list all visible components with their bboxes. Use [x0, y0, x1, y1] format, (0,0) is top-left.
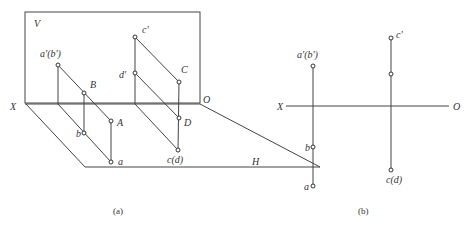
point-B: [82, 91, 86, 95]
label-c-d-b: c(d): [386, 174, 403, 186]
label-d-prime: d': [119, 69, 127, 80]
point-a-prime-b-prime-b: [311, 64, 315, 68]
point-b-b: [311, 145, 315, 149]
figure-a: V X O H a'(b') B A b a c' d' C D c(d) (a…: [9, 12, 320, 216]
label-a-b: a: [304, 181, 309, 192]
point-d-prime-b: [389, 72, 393, 76]
point-D: [177, 116, 181, 120]
label-c-d: c(d): [167, 154, 184, 166]
label-a-prime-b-prime-b: a'(b'): [297, 49, 319, 61]
label-a-prime-b-prime: a'(b'): [40, 48, 62, 60]
point-C: [177, 80, 181, 84]
label-c-prime-b: c': [396, 29, 403, 40]
label-C: C: [181, 64, 188, 75]
point-a: [109, 160, 113, 164]
caption-a: (a): [113, 206, 123, 216]
label-D: D: [183, 117, 192, 128]
point-b: [82, 131, 86, 135]
label-x-b: X: [276, 101, 284, 112]
line-c-prime-c: [135, 37, 179, 82]
caption-b: (b): [358, 206, 369, 216]
label-o-b: O: [453, 101, 460, 112]
projection-diagram: V X O H a'(b') B A b a c' d' C D c(d) (a…: [0, 0, 468, 230]
point-A: [109, 119, 113, 123]
point-d-prime: [133, 71, 137, 75]
label-c-prime: c': [142, 24, 149, 35]
point-c-d-b: [389, 168, 393, 172]
point-c-prime-b: [389, 36, 393, 40]
point-c-prime: [133, 35, 137, 39]
label-x-a: X: [9, 101, 17, 112]
label-b-b: b: [305, 142, 310, 153]
label-B: B: [90, 79, 96, 90]
label-h: H: [251, 156, 260, 167]
figure-b: X O a'(b') c' b a c(d) (b): [276, 29, 460, 216]
label-o-a: O: [203, 94, 210, 105]
point-a-prime-b-prime: [56, 63, 60, 67]
label-v: V: [34, 18, 42, 29]
label-a: a: [118, 156, 123, 167]
label-b: b: [76, 128, 81, 139]
label-A: A: [116, 117, 124, 128]
point-c-d: [176, 148, 180, 152]
point-a-b: [311, 184, 315, 188]
